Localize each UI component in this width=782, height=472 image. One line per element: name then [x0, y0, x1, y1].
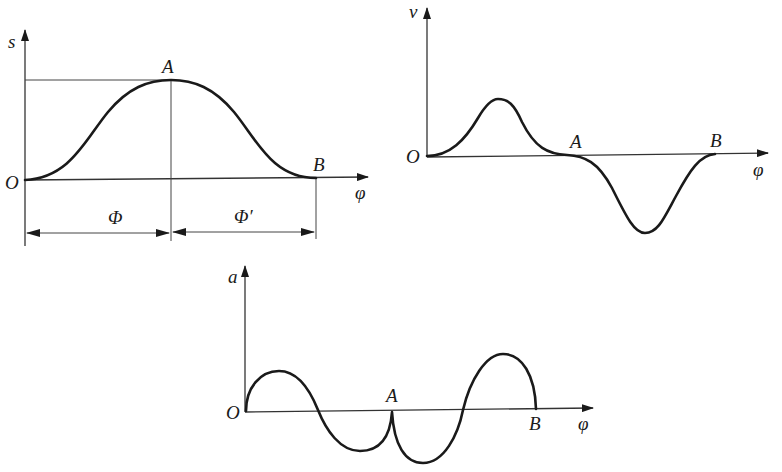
phi-axis-label: φ	[355, 182, 366, 203]
phi-axis-label: φ	[753, 159, 764, 180]
s-axis-label: s	[8, 31, 15, 52]
phi-axis	[427, 153, 768, 157]
return-angle-label: Φ′	[234, 206, 253, 227]
origin-label: O	[5, 172, 19, 193]
phi-axis-label: φ	[578, 413, 589, 434]
phi-axis	[245, 408, 593, 412]
velocity-curve	[427, 99, 715, 233]
acceleration-graph: a O A B φ	[226, 266, 593, 463]
acceleration-curve	[246, 354, 536, 463]
rise-angle-label: Φ	[108, 207, 122, 228]
point-a-label: A	[384, 385, 398, 406]
point-b-label: B	[710, 130, 722, 151]
v-axis-label: v	[409, 1, 418, 22]
point-b-label: B	[529, 413, 541, 434]
velocity-graph: v O A B φ	[406, 1, 768, 233]
point-a-label: A	[568, 131, 582, 152]
displacement-graph: s O A B φ Φ Φ′	[5, 30, 368, 246]
origin-label: O	[226, 402, 240, 423]
origin-label: O	[406, 146, 420, 167]
point-a-label: A	[160, 56, 174, 77]
point-b-label: B	[313, 154, 325, 175]
motion-diagrams: s O A B φ Φ Φ′ v O A B φ a O A B φ	[0, 0, 782, 472]
a-axis-label: a	[228, 266, 238, 287]
